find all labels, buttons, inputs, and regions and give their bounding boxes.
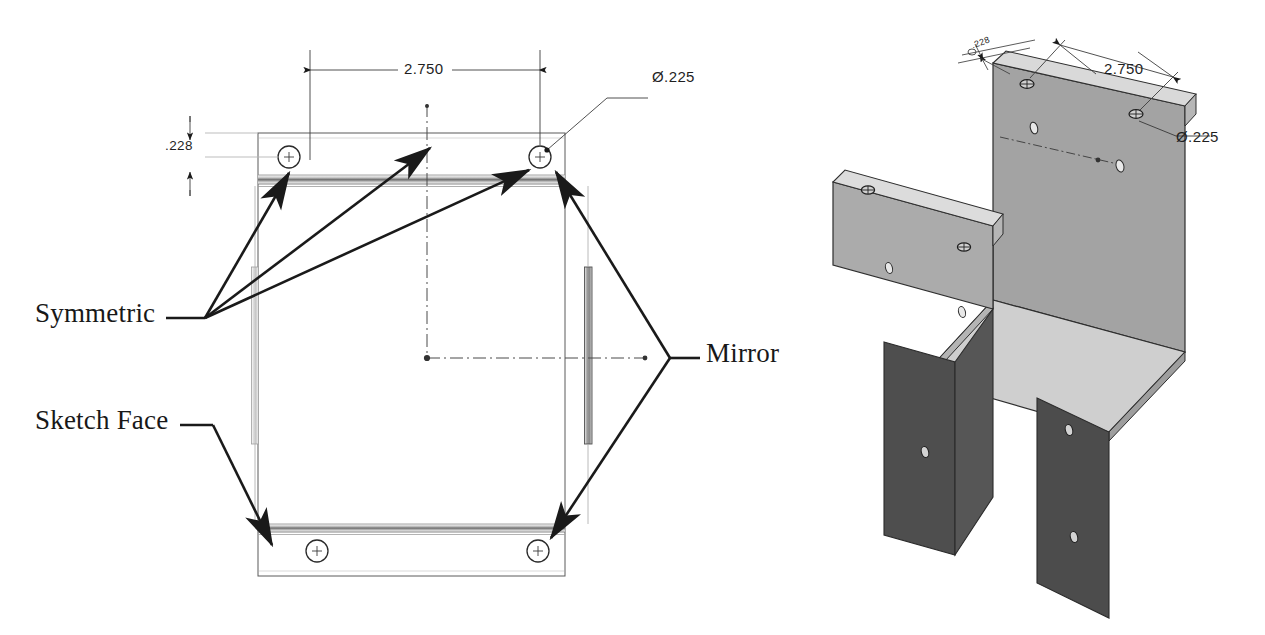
leader-dia-225-front — [547, 98, 648, 150]
drawing-sheet: 2.750 .228 Ø.225 Symmetric Sketch Face M… — [0, 0, 1265, 635]
callout-sketch-face-label: Sketch Face — [35, 405, 168, 436]
hole-center-marks — [284, 152, 545, 556]
dim-dia-225-front-label: Ø.225 — [652, 68, 695, 85]
leader-symmetric — [166, 148, 529, 318]
drawing-canvas — [0, 0, 1265, 635]
front-view-geometry — [166, 50, 700, 576]
callout-symmetric-label: Symmetric — [35, 298, 155, 329]
leader-mirror — [551, 172, 700, 538]
dim-2750-iso-label: 2.750 — [1104, 60, 1144, 77]
dim-2750-front-label: 2.750 — [404, 60, 444, 77]
right-slot — [585, 186, 593, 524]
hole-group — [278, 146, 551, 562]
callout-mirror-label: Mirror — [706, 338, 779, 369]
dim-228-front-label: .228 — [165, 138, 193, 153]
centerlines — [427, 104, 647, 358]
dim-dia-225-iso-label: Ø.225 — [1176, 128, 1219, 145]
iso-view-geometry — [833, 40, 1210, 618]
